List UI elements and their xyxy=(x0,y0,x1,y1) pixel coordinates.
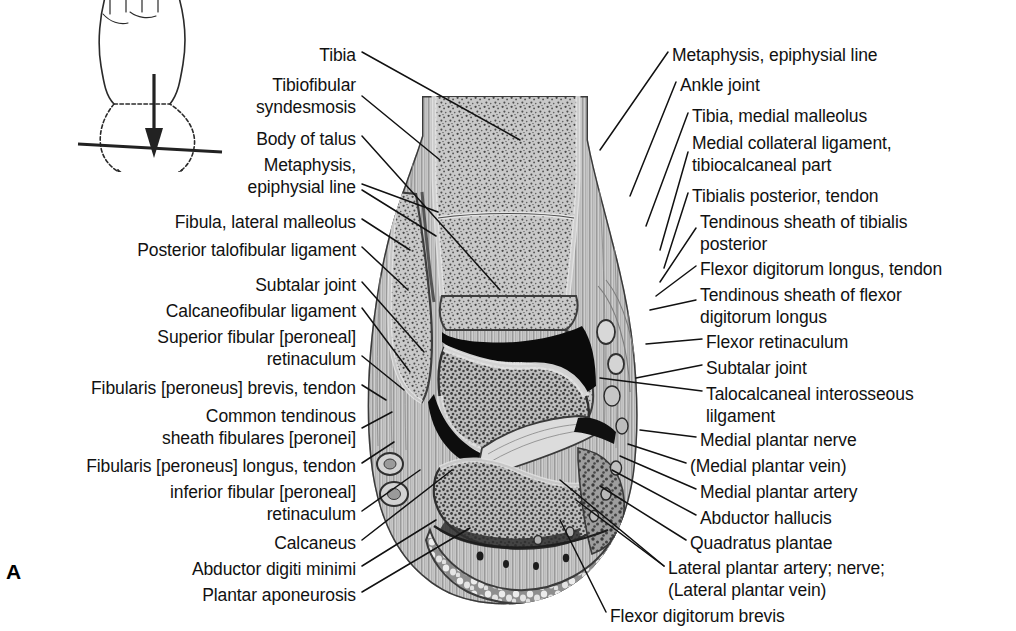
label-tibialis-posterior-tendon: Tibialis posterior, tendon xyxy=(692,186,878,208)
label-fibularis-peroneus-brevis-tendon: Fibularis [peroneus] brevis, tendon xyxy=(91,378,356,400)
label-fibula-lateral-malleolus: Fibula, lateral malleolus xyxy=(175,212,356,234)
ankle-joint-cavity xyxy=(442,326,596,396)
label-metaphysis-epiphysial-line: Metaphysis, epiphysial line xyxy=(248,155,356,198)
label-abductor-hallucis: Abductor hallucis xyxy=(700,508,832,530)
label-medial-plantar-artery: Medial plantar artery xyxy=(700,482,857,504)
view-direction-arrow xyxy=(145,74,163,158)
label-flexor-digitorum-longus-tendon: Flexor digitorum longus, tendon xyxy=(700,259,942,281)
label-flexor-digitorum-brevis: Flexor digitorum brevis xyxy=(610,606,785,628)
label-posterior-talofibular-ligament: Posterior talofibular ligament xyxy=(137,240,356,262)
plate-letter: A xyxy=(6,560,21,584)
label-inferior-fibular-peroneal-retinaculum: inferior fibular [peroneal] retinaculum xyxy=(170,482,356,525)
subtalar-joint-lateral xyxy=(428,394,482,468)
label-quadratus-plantae: Quadratus plantae xyxy=(690,533,832,555)
calcaneus-bone xyxy=(434,460,596,549)
label-flexor-retinaculum: Flexor retinaculum xyxy=(706,332,848,354)
medial-malleolus xyxy=(566,330,593,426)
label-calcaneofibular-ligament: Calcaneofibular ligament xyxy=(166,301,356,323)
epiphysial-line xyxy=(438,214,574,219)
plantar-vessels xyxy=(477,552,570,571)
label-tibia-medial-malleolus: Tibia, medial malleolus xyxy=(692,106,867,128)
label-tibiofibular-syndesmosis: Tibiofibular syndesmosis xyxy=(256,75,356,118)
fibula-lateral-malleolus xyxy=(389,192,431,402)
label-common-tendinous-sheath-fibulares-peronei: Common tendinous sheath fibulares [peron… xyxy=(162,406,356,449)
label-tendinous-sheath-of-flexor-digitorum-longus: Tendinous sheath of flexor digitorum lon… xyxy=(700,285,902,328)
label-metaphysis-epiphysial-line: Metaphysis, epiphysial line xyxy=(672,45,877,67)
label-medial-collateral-ligament-tibiocalcaneal-part: Medial collateral ligament, tibiocalcane… xyxy=(692,133,892,176)
ankle-coronal-section-figure xyxy=(330,96,690,621)
flexor-retinaculum-fibres xyxy=(598,280,638,392)
label-fibularis-peroneus-longus-tendon: Fibularis [peroneus] longus, tendon xyxy=(86,456,356,478)
fibularis-tendons xyxy=(377,453,408,506)
label-tendinous-sheath-of-tibialis-posterior: Tendinous sheath of tibialis posterior xyxy=(700,212,907,255)
specimen-body xyxy=(330,96,690,621)
quadratus-plantae-muscle xyxy=(578,448,624,554)
talus-body xyxy=(439,348,589,456)
label-subtalar-joint: Subtalar joint xyxy=(706,358,807,380)
label-lateral-plantar-artery-nerve-lateral-plantar-vei: Lateral plantar artery; nerve; (Lateral … xyxy=(668,558,885,601)
label-body-of-talus: Body of talus xyxy=(256,129,356,151)
anatomy-plate: TibiaTibiofibular syndesmosisBody of tal… xyxy=(0,0,1016,631)
section-plane-line xyxy=(78,144,222,152)
flexor-digitorum-longus-tendon xyxy=(608,354,624,374)
plantar-aponeurosis xyxy=(434,526,608,548)
plantar-fat-pad xyxy=(426,530,618,604)
label-abductor-digiti-minimi: Abductor digiti minimi xyxy=(192,559,356,581)
label-calcaneus: Calcaneus xyxy=(274,533,356,555)
label-tibia: Tibia xyxy=(319,45,356,67)
tibialis-posterior-tendon xyxy=(597,320,615,344)
label-subtalar-joint: Subtalar joint xyxy=(255,275,356,297)
label-medial-plantar-nerve: Medial plantar nerve xyxy=(700,430,857,452)
label-superior-fibular-peroneal-retinaculum: Superior fibular [peroneal] retinaculum xyxy=(157,327,356,370)
tibiofibular-syndesmosis xyxy=(422,192,434,302)
label-ankle-joint: Ankle joint xyxy=(680,75,760,97)
label-medial-plantar-vein: (Medial plantar vein) xyxy=(690,456,846,478)
plantar-neurovascular-bundle xyxy=(534,386,628,545)
label-talocalcaneal-interosseous-lilgament: Talocalcaneal interosseous lilgament xyxy=(706,384,914,427)
label-plantar-aponeurosis: Plantar aponeurosis xyxy=(202,585,356,607)
tibia-bone xyxy=(434,96,578,296)
talocalcaneal-interosseous-ligament xyxy=(480,416,596,470)
orientation-diagram xyxy=(70,0,250,172)
